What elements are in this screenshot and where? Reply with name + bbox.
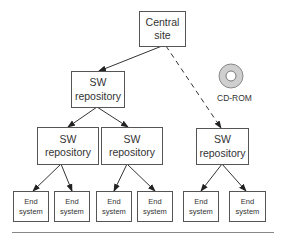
edge-mid-left-to-end-1 bbox=[33, 164, 61, 191]
end-system-node: End system bbox=[54, 191, 90, 222]
node-label-line1: End bbox=[24, 197, 37, 206]
edge-central-to-repo-top bbox=[99, 46, 162, 71]
edge-repo-right-to-end-6 bbox=[222, 164, 246, 191]
central-site-node: Central site bbox=[139, 11, 186, 47]
edge-mid-left-to-end-2 bbox=[61, 164, 72, 191]
node-label-line2: system bbox=[143, 207, 167, 216]
node-label-line1: SW bbox=[60, 133, 77, 146]
sw-repository-top-node: SW repository bbox=[71, 71, 125, 108]
end-system-node: End system bbox=[229, 191, 266, 222]
end-system-node: End system bbox=[183, 191, 219, 222]
node-label-line2: system bbox=[60, 207, 84, 216]
node-label-line1: SW bbox=[90, 76, 107, 89]
sw-repository-mid-right-node: SW repository bbox=[101, 127, 163, 165]
end-system-node: End system bbox=[96, 191, 132, 222]
edge-central-to-repo-right-dashed bbox=[166, 46, 221, 128]
node-label-line2: system bbox=[19, 207, 43, 216]
node-label-line1: End bbox=[241, 197, 254, 206]
end-system-node: End system bbox=[137, 191, 173, 222]
node-label-line2: repository bbox=[109, 146, 155, 159]
sw-repository-right-node: SW repository bbox=[196, 128, 249, 165]
node-label-line1: Central bbox=[146, 16, 180, 29]
bottom-divider bbox=[12, 232, 274, 233]
node-label-line1: SW bbox=[214, 133, 231, 146]
node-label-line2: system bbox=[102, 207, 126, 216]
node-label-line2: system bbox=[236, 207, 260, 216]
node-label-line2: system bbox=[189, 207, 213, 216]
edge-mid-right-to-end-3 bbox=[114, 164, 127, 191]
node-label-line2: site bbox=[154, 29, 170, 42]
node-label-line1: End bbox=[194, 197, 207, 206]
cdrom-icon bbox=[219, 64, 243, 88]
edge-mid-right-to-end-4 bbox=[127, 164, 155, 191]
edge-repo-right-to-end-5 bbox=[201, 164, 222, 191]
node-label-line1: End bbox=[107, 197, 120, 206]
node-label-line1: SW bbox=[124, 133, 141, 146]
cdrom-label: CD-ROM bbox=[217, 93, 252, 103]
node-label-line1: End bbox=[65, 197, 78, 206]
node-label-line2: repository bbox=[75, 90, 121, 103]
end-system-node: End system bbox=[13, 191, 49, 222]
node-label-line1: End bbox=[148, 197, 161, 206]
node-label-line2: repository bbox=[45, 146, 91, 159]
node-label-line2: repository bbox=[199, 147, 245, 160]
edge-repo-top-to-mid-right bbox=[97, 107, 128, 127]
edge-repo-top-to-mid-left bbox=[68, 107, 97, 127]
sw-repository-mid-left-node: SW repository bbox=[37, 127, 99, 165]
